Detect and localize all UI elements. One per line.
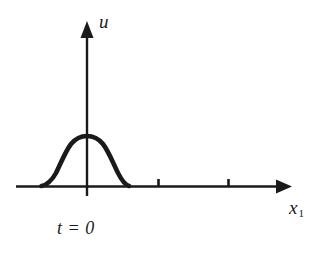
wave-initial-condition-diagram: [0, 0, 327, 255]
x-axis-label-subscript: 1: [298, 207, 304, 219]
time-variable: t: [57, 218, 63, 238]
x-axis-label: x1: [289, 198, 304, 219]
time-annotation: t=0: [57, 219, 95, 237]
figure-background: [0, 0, 327, 255]
equals-sign: =: [68, 218, 81, 238]
x-axis-label-base: x: [289, 197, 297, 218]
time-value: 0: [85, 218, 95, 238]
y-axis-label: u: [99, 12, 109, 31]
